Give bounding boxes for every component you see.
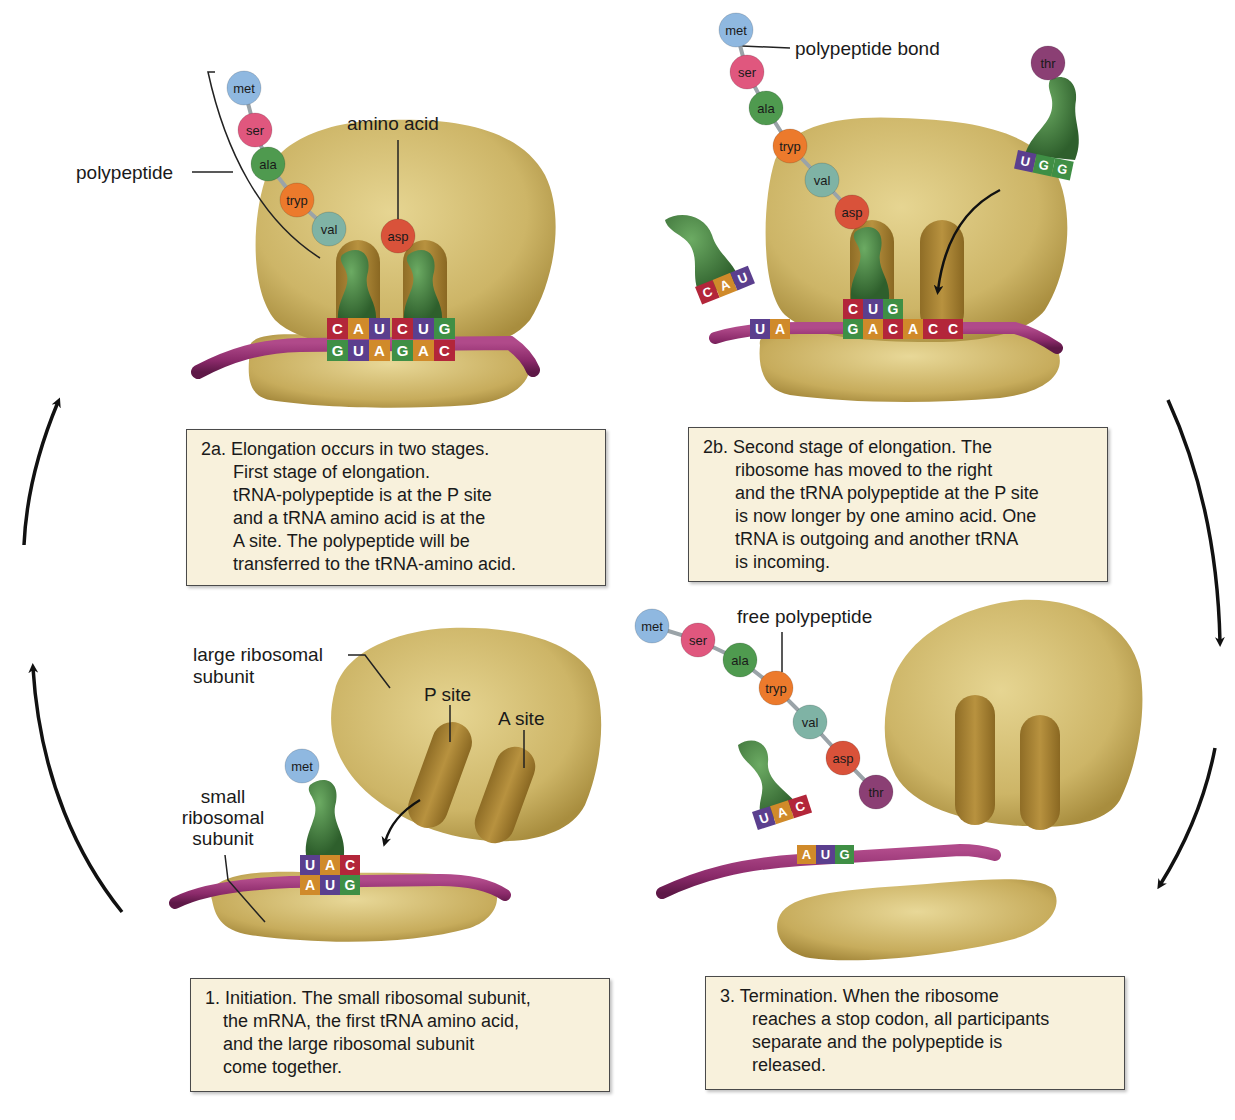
svg-text:met: met: [291, 759, 313, 774]
svg-text:ser: ser: [246, 123, 265, 138]
amino-acid-met: met: [285, 749, 319, 783]
a-site-tunnel: [1020, 715, 1060, 830]
svg-text:C: C: [397, 320, 408, 337]
svg-text:asp: asp: [388, 229, 409, 244]
svg-text:ala: ala: [731, 653, 749, 668]
mrna-codons: GACACC: [843, 319, 963, 339]
anticodon-p-site: CUG: [843, 299, 903, 319]
svg-text:A: A: [325, 857, 335, 873]
svg-text:C: C: [928, 321, 938, 337]
codon-start: AUG: [300, 875, 360, 895]
amino-acid-ser: ser: [238, 113, 272, 147]
svg-text:tryp: tryp: [779, 139, 801, 154]
amino-acid-val: val: [793, 705, 827, 739]
svg-text:A: A: [802, 847, 812, 862]
anticodon-a-site: CUG: [392, 318, 455, 339]
svg-text:A: A: [908, 321, 918, 337]
svg-text:A: A: [775, 321, 785, 337]
amino-acid-val: val: [805, 163, 839, 197]
svg-text:A: A: [418, 342, 429, 359]
large-ribosomal-subunit: [885, 600, 1143, 827]
svg-text:tryp: tryp: [765, 681, 787, 696]
svg-text:U: U: [418, 320, 429, 337]
cycle-arrow-right-upper: [1168, 400, 1220, 642]
codon-a-site: GAC: [392, 340, 455, 361]
svg-text:U: U: [374, 320, 385, 337]
cycle-arrow-right-lower: [1160, 748, 1215, 885]
label-free-polypeptide: free polypeptide: [737, 606, 872, 627]
svg-text:C: C: [345, 857, 355, 873]
caption-3: 3. Termination. When the ribosome reache…: [705, 976, 1125, 1090]
label-polypeptide: polypeptide: [76, 162, 173, 183]
caption-1: 1. Initiation. The small ribosomal subun…: [190, 978, 610, 1092]
svg-text:ser: ser: [738, 65, 757, 80]
svg-text:asp: asp: [842, 205, 863, 220]
svg-text:C: C: [439, 342, 450, 359]
svg-text:U: U: [325, 877, 335, 893]
svg-text:A: A: [353, 320, 364, 337]
svg-text:G: G: [397, 342, 409, 359]
svg-text:ser: ser: [689, 633, 708, 648]
svg-text:U: U: [305, 857, 315, 873]
label-small-ribosomal-subunit: small ribosomal subunit: [176, 786, 270, 849]
label-large-ribosomal-subunit: large ribosomal subunit: [193, 644, 323, 688]
svg-text:U: U: [821, 847, 830, 862]
amino-acid-met: met: [635, 609, 669, 643]
amino-acid-met: met: [719, 13, 753, 47]
label-amino-acid: amino acid: [347, 113, 439, 134]
svg-text:ala: ala: [259, 157, 277, 172]
caption-2b: 2b. Second stage of elongation. The ribo…: [688, 427, 1108, 582]
amino-acid-tryp: tryp: [280, 183, 314, 217]
anticodon-initiator: UAC: [300, 855, 360, 875]
svg-text:G: G: [439, 320, 451, 337]
svg-text:G: G: [888, 301, 899, 317]
svg-text:A: A: [374, 342, 385, 359]
svg-text:thr: thr: [1040, 56, 1056, 71]
codon-p-site: GUA: [327, 340, 390, 361]
svg-text:G: G: [332, 342, 344, 359]
amino-acid-met: met: [227, 71, 261, 105]
a-site-tunnel: [920, 220, 964, 335]
mrna-codon: AUG: [797, 845, 854, 864]
svg-text:C: C: [888, 321, 898, 337]
amino-acid-thr: thr: [859, 775, 893, 809]
amino-acid-asp: asp: [826, 741, 860, 775]
anticodon-p-site: CAU: [327, 318, 390, 339]
svg-text:G: G: [848, 321, 859, 337]
svg-text:met: met: [641, 619, 663, 634]
polypeptide-bond-leader-line: [742, 46, 790, 48]
amino-acid-ser: ser: [730, 55, 764, 89]
small-ribosomal-subunit: [777, 879, 1056, 960]
svg-text:A: A: [868, 321, 878, 337]
trna-incoming: [1025, 77, 1079, 160]
amino-acid-asp: asp: [835, 195, 869, 229]
amino-acid-asp: asp: [381, 219, 415, 253]
svg-text:G: G: [345, 877, 356, 893]
svg-text:U: U: [868, 301, 878, 317]
cycle-arrow-left-lower: [33, 668, 122, 912]
amino-acid-ala: ala: [749, 91, 783, 125]
panel-2b-illustration: [665, 30, 1079, 402]
amino-acid-ser: ser: [681, 623, 715, 657]
amino-acid-tryp: tryp: [759, 671, 793, 705]
svg-text:G: G: [839, 847, 849, 862]
cycle-arrow-left-upper: [24, 402, 58, 545]
svg-text:tryp: tryp: [286, 193, 308, 208]
label-polypeptide-bond: polypeptide bond: [795, 38, 940, 59]
label-p-site: P site: [424, 684, 471, 705]
amino-acid-thr: thr: [1031, 46, 1065, 80]
initiator-trna: [306, 780, 344, 855]
caption-2a: 2a. Elongation occurs in two stages. Fir…: [186, 429, 606, 586]
svg-text:ala: ala: [757, 101, 775, 116]
svg-text:C: C: [948, 321, 958, 337]
label-a-site: A site: [498, 708, 544, 729]
amino-acid-ala: ala: [723, 643, 757, 677]
svg-text:U: U: [353, 342, 364, 359]
svg-text:val: val: [321, 222, 338, 237]
svg-text:C: C: [848, 301, 858, 317]
amino-acid-tryp: tryp: [773, 129, 807, 163]
svg-text:val: val: [802, 715, 819, 730]
svg-text:asp: asp: [833, 751, 854, 766]
svg-text:met: met: [725, 23, 747, 38]
svg-text:met: met: [233, 81, 255, 96]
